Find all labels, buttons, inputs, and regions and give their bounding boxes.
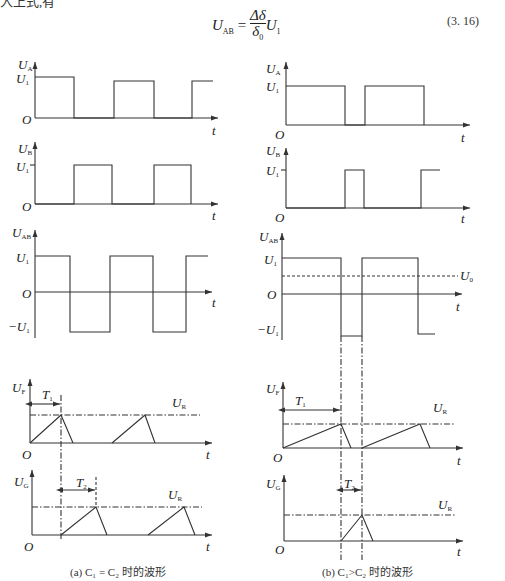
panel-b-ug	[284, 475, 463, 541]
label-u1-b2: U1	[266, 164, 279, 182]
caption-a: (a) C₁ = C₂ 时的波形	[70, 563, 166, 579]
panel-a-ua	[35, 62, 218, 118]
panel-a-uab	[35, 230, 212, 338]
label-t2-b: T2	[344, 477, 355, 495]
label-ug-a: UG	[14, 475, 28, 493]
label-ur-b1: UR	[433, 401, 447, 419]
label-ur-a2: UR	[168, 488, 182, 506]
label-u1-b3: U1	[264, 253, 277, 271]
label-t: t	[456, 300, 460, 313]
label-uf-a: UF	[12, 381, 25, 399]
label-uab-b: UAB	[259, 230, 278, 248]
label-ub-b: UB	[266, 144, 280, 162]
caption-b: (b) C₁>C₂ 时的波形	[322, 563, 413, 579]
label-neg-u1-a: −U1	[8, 320, 30, 338]
label-t: t	[206, 540, 210, 553]
label-t: t	[457, 454, 461, 467]
label-origin: O	[22, 448, 31, 461]
label-t: t	[212, 124, 216, 137]
label-t: t	[461, 212, 465, 225]
label-origin: O	[275, 211, 284, 224]
label-t2-a: T2	[76, 476, 87, 494]
label-u1-b1: U1	[266, 80, 279, 98]
label-t: t	[212, 209, 216, 222]
label-u1-a3: U1	[16, 251, 29, 269]
label-uab-a: UAB	[12, 226, 31, 244]
panel-a-ub	[30, 142, 218, 204]
label-u1-a2: U1	[16, 160, 29, 178]
label-origin: O	[273, 451, 282, 464]
label-t: t	[206, 448, 210, 461]
label-ug-b: UG	[266, 477, 280, 495]
label-t1-a: T1	[42, 388, 53, 406]
label-u1-a1: U1	[16, 72, 29, 90]
label-t: t	[461, 131, 465, 144]
label-origin: O	[22, 113, 31, 126]
label-ur-b2: UR	[438, 498, 452, 516]
label-origin: O	[22, 200, 31, 213]
label-t1-b: T1	[295, 394, 306, 412]
panel-a-ug	[32, 470, 212, 535]
label-u0: U0	[460, 269, 473, 287]
label-ub-a: UB	[18, 142, 32, 160]
label-t: t	[212, 296, 216, 309]
label-uf-b: UF	[266, 382, 279, 400]
panel-b-uab	[282, 233, 462, 560]
panel-b-ub	[281, 148, 470, 208]
label-t: t	[457, 545, 461, 558]
label-origin: O	[275, 128, 284, 141]
label-ua-b: UA	[266, 62, 280, 80]
label-ur-a1: UR	[172, 396, 186, 414]
label-origin: O	[275, 543, 284, 556]
label-origin: O	[22, 287, 31, 300]
panel-b-ua	[286, 62, 470, 125]
label-origin: O	[267, 288, 276, 301]
label-neg-u1-b: −U1	[257, 323, 279, 341]
label-origin: O	[24, 540, 33, 553]
